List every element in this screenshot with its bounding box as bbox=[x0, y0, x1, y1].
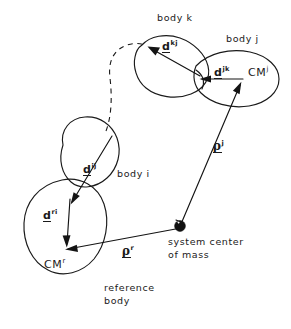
label-reference-body-line1: reference bbox=[104, 282, 155, 293]
vector-rho-j-shaft bbox=[181, 85, 240, 224]
label-vector-d-ri: dri bbox=[43, 209, 58, 223]
vector-d-jk-arrowhead bbox=[200, 75, 212, 82]
label-vector-d-ij: dij bbox=[83, 163, 97, 177]
label-vector-d-ij-superscript: ij bbox=[91, 162, 96, 170]
label-vector-d-kj: dkj bbox=[162, 40, 178, 54]
label-cm-r-superscript: r bbox=[62, 257, 65, 265]
label-body-j: body j bbox=[226, 33, 259, 44]
label-vector-rho-j-base: ρ bbox=[213, 140, 222, 153]
vector-rho-j-arrowhead bbox=[233, 82, 242, 94]
label-vector-d-jk-superscript: jk bbox=[222, 65, 229, 73]
label-cm-r-base: CM bbox=[44, 258, 62, 271]
vector-d-ij-arrowhead bbox=[71, 192, 80, 204]
multibody-diagram-figure: body k body j body i reference body dkj … bbox=[0, 0, 291, 329]
label-vector-d-jk: djk bbox=[214, 66, 230, 80]
label-vector-rho-r-superscript: r bbox=[131, 244, 135, 252]
label-system-center-of-mass-line1: system center bbox=[168, 236, 244, 247]
label-system-center-of-mass-line2: of mass bbox=[168, 249, 209, 260]
label-cm-j-superscript: j bbox=[266, 65, 269, 73]
label-vector-rho-j-superscript: j bbox=[222, 139, 225, 147]
vector-d-kj-arrowhead bbox=[148, 47, 161, 56]
label-cm-j: CMj bbox=[248, 65, 269, 80]
label-vector-rho-r: ρr bbox=[122, 245, 134, 259]
label-vector-d-kj-superscript: kj bbox=[170, 39, 177, 47]
label-vector-rho-r-base: ρ bbox=[122, 245, 131, 258]
vector-d-ri-arrowhead bbox=[63, 235, 71, 247]
label-cm-r: CMr bbox=[44, 257, 66, 272]
label-body-k: body k bbox=[157, 12, 193, 23]
diagram-canvas bbox=[0, 0, 291, 329]
label-vector-d-ri-superscript: ri bbox=[51, 208, 57, 216]
label-reference-body-line2: body bbox=[104, 295, 130, 306]
label-body-i: body i bbox=[117, 168, 150, 179]
label-cm-j-base: CM bbox=[248, 66, 266, 79]
dashed-connector-i-to-k bbox=[106, 44, 145, 132]
label-vector-rho-j: ρj bbox=[213, 140, 224, 154]
